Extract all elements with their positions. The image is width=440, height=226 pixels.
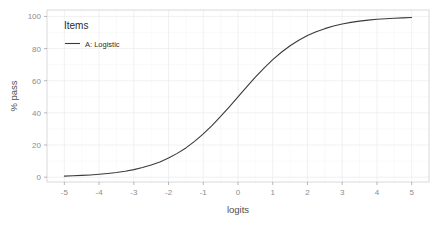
- x-tick-label: -4: [96, 188, 104, 197]
- x-tick-label: -5: [61, 188, 69, 197]
- x-axis-title: logits: [227, 204, 249, 215]
- x-tick-label: 5: [409, 188, 414, 197]
- y-tick-label: 100: [28, 12, 42, 21]
- legend-entry-label: A: Logistic: [85, 40, 120, 49]
- y-tick-label: 60: [32, 77, 41, 86]
- chart-container: -5-4-3-2-1012345 020406080100 logits % p…: [0, 0, 440, 226]
- logistic-curve-chart: -5-4-3-2-1012345 020406080100 logits % p…: [0, 0, 440, 226]
- x-tick-label: 1: [271, 188, 276, 197]
- x-tick-label: 4: [375, 188, 380, 197]
- y-axis-title: % pass: [8, 80, 19, 111]
- x-tick-label: 3: [340, 188, 345, 197]
- y-tick-label: 40: [32, 109, 41, 118]
- y-tick-label: 0: [37, 173, 42, 182]
- x-tick-label: 0: [236, 188, 241, 197]
- x-tick-label: -2: [165, 188, 173, 197]
- x-tick-label: -1: [200, 188, 208, 197]
- y-tick-label: 20: [32, 141, 41, 150]
- legend-title: Items: [64, 20, 88, 31]
- y-tick-label: 80: [32, 45, 41, 54]
- x-tick-label: 2: [305, 188, 310, 197]
- x-tick-label: -3: [130, 188, 138, 197]
